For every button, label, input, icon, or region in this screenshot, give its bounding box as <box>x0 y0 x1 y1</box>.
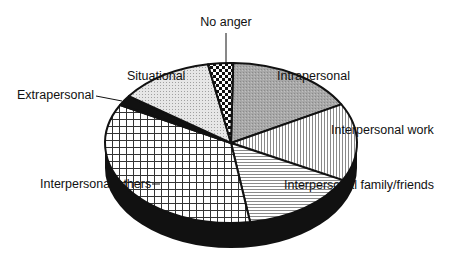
label-intrapersonal: Intrapersonal <box>277 69 350 83</box>
extrapersonal-leader-line <box>96 96 122 101</box>
pie-chart: No anger Intrapersonal Interpersonal wor… <box>0 0 454 259</box>
label-interpersonal-work: Interpersonal work <box>331 123 435 137</box>
label-interpersonal-others: Interpersonal others <box>40 177 151 191</box>
label-interpersonal-family-friends: Interpersonal family/friends <box>284 178 434 192</box>
label-no-anger: No anger <box>200 15 251 29</box>
label-extrapersonal: Extrapersonal <box>17 88 94 102</box>
label-situational: Situational <box>127 69 185 83</box>
